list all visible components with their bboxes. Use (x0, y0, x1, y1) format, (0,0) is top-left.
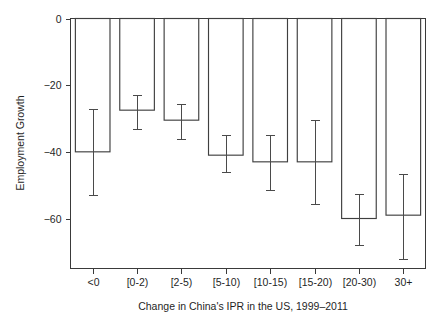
bar (75, 19, 110, 152)
x-axis-tick-label: [0-2) (127, 276, 149, 288)
chart-figure: 0−20−40−60 <0[0-2)[2-5)[5-10)[10-15)[15-… (0, 0, 441, 324)
y-axis: 0−20−40−60 (44, 13, 71, 225)
y-axis-title: Employment Growth (14, 95, 26, 190)
bar (297, 19, 332, 162)
employment-growth-bar-chart: 0−20−40−60 <0[0-2)[2-5)[5-10)[10-15)[15-… (0, 0, 441, 324)
x-axis-tick-label: [2-5) (171, 276, 193, 288)
bar (209, 19, 244, 156)
bars-group (75, 19, 420, 219)
x-axis-tick-label: [5-10) (213, 276, 240, 288)
x-axis-tick-label: [20-30) (343, 276, 376, 288)
bar (342, 19, 377, 219)
y-axis-tick-label: 0 (56, 13, 62, 25)
x-axis-tick-label: [15-20) (299, 276, 332, 288)
x-axis-title: Change in China's IPR in the US, 1999–20… (138, 300, 348, 312)
y-axis-tick-label: −40 (44, 146, 62, 158)
x-axis-tick-label: [10-15) (254, 276, 287, 288)
x-axis: <0[0-2)[2-5)[5-10)[10-15)[15-20)[20-30)3… (88, 269, 413, 288)
x-axis-tick-label: <0 (88, 276, 100, 288)
y-axis-tick-label: −20 (44, 79, 62, 91)
x-axis-tick-label: 30+ (395, 276, 413, 288)
y-axis-tick-label: −60 (44, 213, 62, 225)
